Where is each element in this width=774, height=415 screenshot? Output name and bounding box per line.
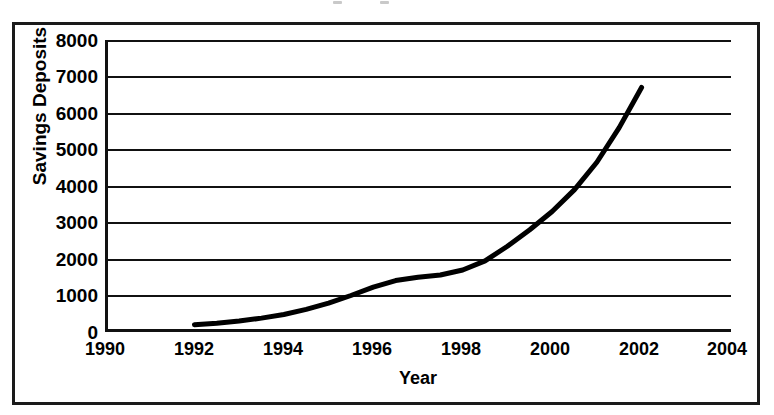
x-axis-title: Year [105,368,731,389]
plot-area [105,40,731,332]
cropped-title-remnant [0,0,774,14]
y-axis-title: Savings Deposits [29,0,51,226]
title-smudge-left [333,1,342,4]
chart-figure: Savings Deposits 8000 7000 6000 5000 400… [0,0,774,415]
series-savings-deposits [105,40,731,332]
title-smudge-right [380,1,389,4]
